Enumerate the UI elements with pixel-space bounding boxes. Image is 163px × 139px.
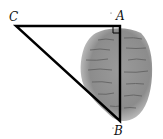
pond-region: [81, 28, 153, 121]
point-a-dot: [110, 12, 111, 13]
label-a: A: [115, 9, 125, 23]
diagram-canvas: C A B: [0, 0, 163, 139]
label-b: B: [113, 124, 123, 138]
triangle-diagram: C A B: [0, 0, 163, 139]
point-b-dot: [112, 127, 113, 128]
label-c: C: [9, 10, 18, 24]
